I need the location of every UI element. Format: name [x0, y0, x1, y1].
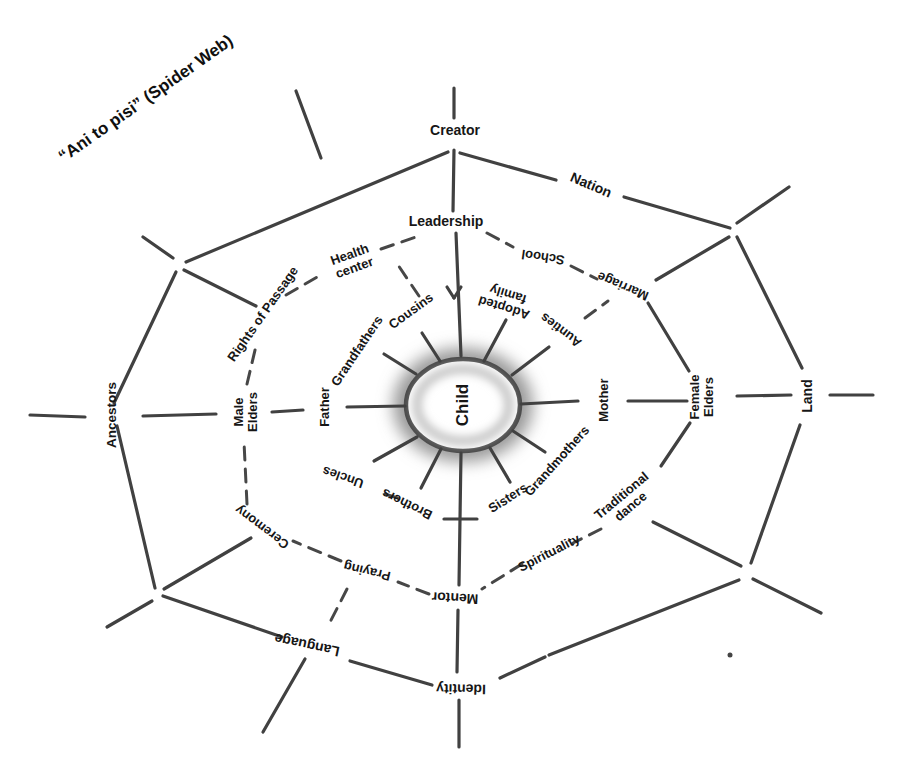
node-mentor: Mentor: [431, 589, 478, 606]
node-creator: Creator: [430, 123, 480, 138]
node-ancestors: Ancestors: [105, 382, 119, 448]
node-leadership: Leadership: [409, 214, 484, 229]
node-male-elders: Male Elders: [232, 389, 259, 435]
center-node-label: Child: [454, 384, 472, 427]
ink-dot: [728, 653, 733, 658]
node-mother: Mother: [597, 378, 611, 421]
spider-web-diagram: “Ani to pisi” (Spider Web) Child Father …: [0, 0, 902, 784]
node-land: Land: [800, 379, 815, 412]
node-father: Father: [318, 387, 332, 427]
node-female-elders: Female Elders: [688, 372, 715, 422]
node-identity: Identity: [436, 681, 486, 697]
